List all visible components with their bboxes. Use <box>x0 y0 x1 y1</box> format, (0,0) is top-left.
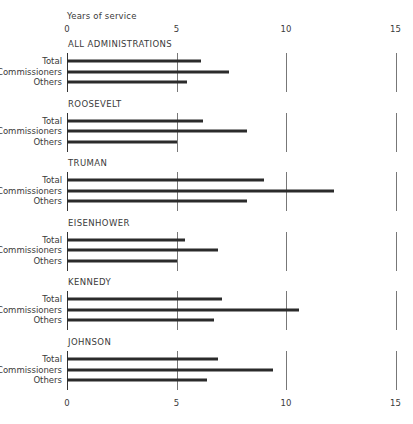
row-label-commissioners: Commissioners <box>0 67 62 77</box>
top-axis-tick-0: 0 <box>64 24 69 34</box>
row-label-others: Others <box>33 77 62 87</box>
bar-others <box>67 259 177 262</box>
years-of-service-chart: Years of service 051015 ALL ADMINISTRATI… <box>0 0 413 424</box>
row-label-others: Others <box>33 196 62 206</box>
row-label-others: Others <box>33 137 62 147</box>
top-axis-tick-5: 5 <box>174 24 179 34</box>
gridline-10 <box>286 232 287 271</box>
bar-others <box>67 319 214 322</box>
bottom-axis-tick-0: 0 <box>64 398 69 408</box>
bottom-axis-tick-10: 10 <box>281 398 292 408</box>
group-title: ALL ADMINISTRATIONS <box>68 39 172 49</box>
bar-others <box>67 140 177 143</box>
row-label-others: Others <box>33 315 62 325</box>
gridline-10 <box>286 351 287 390</box>
group-title: EISENHOWER <box>68 218 130 228</box>
top-axis-tick-10: 10 <box>281 24 292 34</box>
gridline-10 <box>286 53 287 92</box>
bar-others <box>67 379 207 382</box>
bar-commissioners <box>67 368 273 371</box>
row-label-total: Total <box>42 175 62 185</box>
bottom-axis-tick-5: 5 <box>174 398 179 408</box>
row-label-total: Total <box>42 354 62 364</box>
top-axis-tick-15: 15 <box>390 24 401 34</box>
bar-others <box>67 200 247 203</box>
row-label-total: Total <box>42 116 62 126</box>
group-title: TRUMAN <box>68 158 107 168</box>
gridline-10 <box>286 113 287 152</box>
bar-commissioners <box>67 70 229 73</box>
row-label-commissioners: Commissioners <box>0 365 62 375</box>
row-label-others: Others <box>33 375 62 385</box>
row-label-total: Total <box>42 294 62 304</box>
row-label-commissioners: Commissioners <box>0 126 62 136</box>
gridline-15 <box>396 172 397 211</box>
row-label-total: Total <box>42 56 62 66</box>
bar-commissioners <box>67 189 334 192</box>
bar-others <box>67 81 187 84</box>
bar-total <box>67 298 222 301</box>
bar-total <box>67 238 185 241</box>
group-title: ROOSEVELT <box>68 99 122 109</box>
bar-commissioners <box>67 308 299 311</box>
bar-total <box>67 60 201 63</box>
bar-total <box>67 179 264 182</box>
bottom-axis-tick-15: 15 <box>390 398 401 408</box>
row-label-commissioners: Commissioners <box>0 305 62 315</box>
gridline-15 <box>396 53 397 92</box>
row-label-commissioners: Commissioners <box>0 245 62 255</box>
gridline-15 <box>396 351 397 390</box>
row-label-others: Others <box>33 256 62 266</box>
bar-total <box>67 119 203 122</box>
bar-commissioners <box>67 249 218 252</box>
row-label-commissioners: Commissioners <box>0 186 62 196</box>
bar-total <box>67 358 218 361</box>
bar-commissioners <box>67 130 247 133</box>
gridline-15 <box>396 291 397 330</box>
x-axis-title: Years of service <box>67 11 137 21</box>
gridline-15 <box>396 113 397 152</box>
group-title: KENNEDY <box>68 277 111 287</box>
gridline-15 <box>396 232 397 271</box>
row-label-total: Total <box>42 235 62 245</box>
group-title: JOHNSON <box>68 337 111 347</box>
